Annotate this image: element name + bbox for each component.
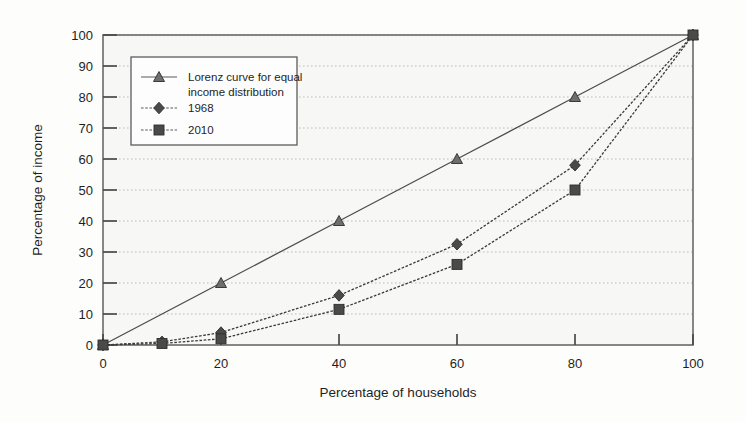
y-tick-label: 60 (79, 152, 93, 167)
y-tick-label: 70 (79, 121, 93, 136)
data-point-marker-square (688, 30, 698, 40)
y-tick-label: 0 (86, 338, 93, 353)
legend-label-line1-1: 1968 (188, 102, 214, 114)
x-tick-label: 60 (450, 356, 464, 371)
data-point-marker-square (216, 334, 226, 344)
data-point-marker-square (157, 338, 167, 348)
x-tick-label: 40 (332, 356, 346, 371)
data-point-marker-square (154, 125, 164, 135)
x-tick-label: 80 (568, 356, 582, 371)
lorenz-curve-chart: 0102030405060708090100 020406080100 Perc… (0, 0, 746, 422)
legend-label-line1-2: 2010 (188, 124, 214, 136)
chart-figure: 0102030405060708090100 020406080100 Perc… (0, 0, 746, 422)
x-tick-label: 20 (214, 356, 228, 371)
legend-label-line1-0: Lorenz curve for equal (188, 71, 302, 83)
y-tick-label: 80 (79, 90, 93, 105)
y-tick-label: 10 (79, 307, 93, 322)
legend-label-line2-0: income distribution (188, 86, 284, 98)
chart-legend[interactable]: Lorenz curve for equalincome distributio… (131, 57, 302, 145)
y-tick-label: 40 (79, 214, 93, 229)
data-point-marker-square (452, 259, 462, 269)
data-point-marker-square (570, 185, 580, 195)
x-tick-label: 100 (682, 356, 704, 371)
y-axis-title: Percentage of income (30, 124, 45, 255)
data-point-marker-square (98, 340, 108, 350)
y-tick-label: 50 (79, 183, 93, 198)
y-tick-label: 90 (79, 59, 93, 74)
y-tick-label: 30 (79, 245, 93, 260)
data-point-marker-square (334, 304, 344, 314)
x-tick-label: 0 (99, 356, 106, 371)
x-axis-title: Percentage of households (320, 385, 477, 400)
y-tick-label: 20 (79, 276, 93, 291)
y-tick-label: 100 (71, 28, 93, 43)
